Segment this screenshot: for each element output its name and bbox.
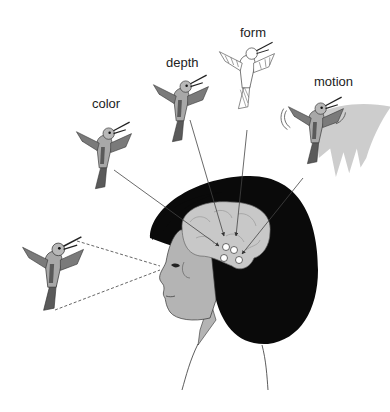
- label-depth: depth: [166, 55, 199, 70]
- bird-form: [219, 42, 274, 109]
- label-color: color: [92, 96, 120, 111]
- bird-motion: [281, 97, 390, 177]
- view-line-bottom: [55, 270, 160, 310]
- label-motion: motion: [314, 74, 353, 89]
- diagram-canvas: color depth form motion: [0, 0, 390, 412]
- view-line-top: [77, 241, 160, 266]
- bird-color: [76, 122, 131, 189]
- label-form: form: [240, 25, 266, 40]
- bird-depth: [153, 75, 208, 142]
- shoulders-outline: [182, 344, 268, 390]
- bird-viewed: [23, 237, 84, 310]
